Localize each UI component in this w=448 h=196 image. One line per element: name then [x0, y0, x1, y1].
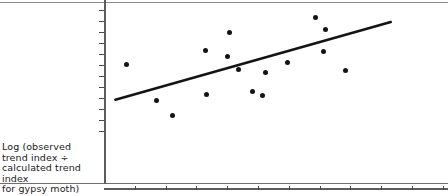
scatter-point [170, 113, 175, 118]
y-axis-label-line-3: calculated trend index [2, 163, 102, 184]
x-tick-mark [135, 186, 136, 190]
x-tick-mark [443, 186, 444, 190]
x-tick-mark [320, 186, 321, 190]
scatter-point [323, 27, 328, 32]
x-tick-mark [289, 186, 290, 190]
scatter-point [250, 89, 255, 94]
y-axis-label: Log (observed trend index ÷ calculated t… [2, 142, 102, 195]
scatter-point [227, 30, 232, 35]
figure-container: 2.52.01.51.00.50−0.5−1.0−1.5−2.0−2.5−3.0… [0, 0, 448, 196]
x-tick-mark [227, 186, 228, 190]
x-tick-mark [196, 186, 197, 190]
y-axis-label-line-4: for gypsy moth) [2, 184, 102, 195]
x-tick-mark [166, 186, 167, 190]
plot-area [104, 0, 448, 184]
x-tick-mark [381, 186, 382, 190]
trend-line [104, 0, 448, 184]
y-axis-label-line-1: Log (observed [2, 142, 102, 153]
x-tick-mark [258, 186, 259, 190]
x-tick-mark [412, 186, 413, 190]
scatter-point [124, 62, 129, 67]
scatter-point [313, 15, 318, 20]
scatter-point [203, 48, 208, 53]
scatter-point [263, 70, 268, 75]
x-tick-mark [350, 186, 351, 190]
scatter-point [236, 67, 241, 72]
x-axis-line [104, 188, 448, 190]
